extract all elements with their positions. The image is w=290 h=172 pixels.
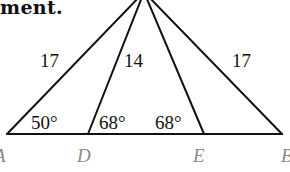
point-D: D — [76, 145, 91, 166]
label-side-right: 17 — [232, 50, 251, 71]
triangle-diagram: 17 14 17 50° 68° 68° A D E B — [0, 0, 290, 172]
angle-A: 50° — [31, 112, 58, 133]
point-A: A — [0, 145, 6, 166]
point-E: E — [192, 145, 205, 166]
angle-D: 68° — [99, 112, 126, 133]
label-side-left: 17 — [40, 50, 59, 71]
angle-E: 68° — [155, 112, 182, 133]
point-B: B — [281, 145, 290, 166]
label-side-inner: 14 — [124, 50, 144, 71]
